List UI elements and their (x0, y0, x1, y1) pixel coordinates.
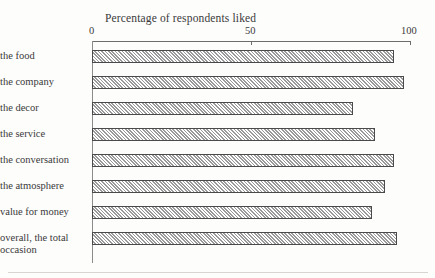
bar-row: the service (0, 128, 435, 154)
bar-row: the conversation (0, 154, 435, 180)
bar-row: value for money (0, 206, 435, 232)
bar (92, 102, 353, 115)
category-label: value for money (0, 206, 86, 218)
bar-row: the food (0, 50, 435, 76)
plot-area: the foodthe companythe decorthe servicet… (0, 0, 435, 278)
bar-row: the decor (0, 102, 435, 128)
category-label: the food (0, 50, 86, 62)
bar-chart-figure: Percentage of respondents liked 0 50 100… (0, 0, 435, 278)
bar (92, 50, 394, 63)
bar (92, 128, 375, 141)
category-label: the conversation (0, 154, 86, 166)
bar (92, 232, 397, 245)
category-label: overall, the total occasion (0, 232, 86, 255)
category-label: the atmosphere (0, 180, 86, 192)
category-label: the service (0, 128, 86, 140)
bar-row: overall, the total occasion (0, 232, 435, 258)
category-label: the company (0, 76, 86, 88)
category-label: the decor (0, 102, 86, 114)
bar (92, 76, 404, 89)
scan-artifact-line (8, 272, 428, 273)
bar (92, 180, 385, 193)
bar-row: the company (0, 76, 435, 102)
bar (92, 206, 372, 219)
bar (92, 154, 394, 167)
bar-row: the atmosphere (0, 180, 435, 206)
